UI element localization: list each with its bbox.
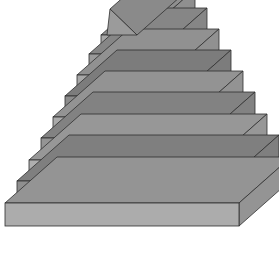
figure-root: [0, 0, 279, 256]
stepped-pyramid-illustration: [0, 0, 279, 256]
tier-0-base: [5, 157, 279, 226]
tier-0-base-front-face: [5, 203, 239, 226]
